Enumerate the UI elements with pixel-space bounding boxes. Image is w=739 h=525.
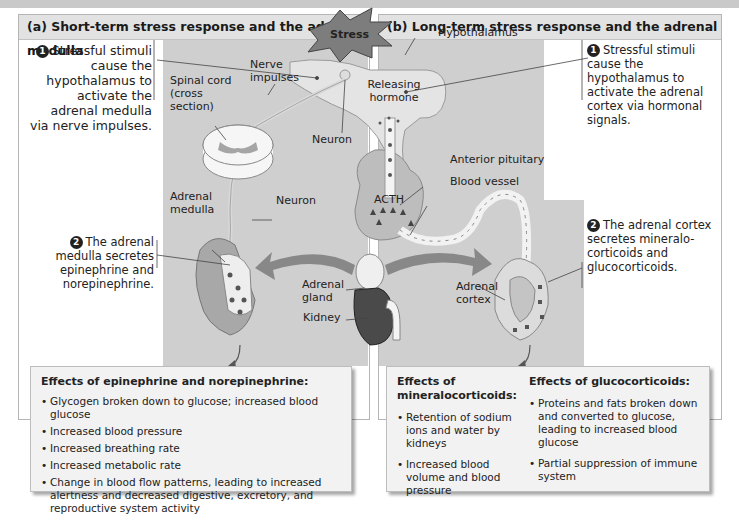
list-item: Glycogen broken down to glucose; increas… (41, 395, 343, 421)
label-nerve-impulses: Nerve impulses (250, 58, 298, 84)
effects-mineralo-list: Retention of sodium ions and water by ki… (397, 411, 513, 497)
list-item: Change in blood flow patterns, leading t… (41, 476, 343, 515)
label-anterior-pituitary: Anterior pituitary (450, 153, 544, 166)
label-neuron-top: Neuron (312, 133, 352, 146)
label-acth: ACTH (374, 193, 404, 206)
label-spinal-cord: Spinal cord (cross section) (170, 74, 242, 113)
step-number-1-icon: 1 (36, 45, 49, 58)
label-stress: Stress (330, 28, 369, 41)
panel-a-step-2: 2The adrenal medulla secretes epinephrin… (30, 235, 154, 291)
list-item: Increased blood volume and blood pressur… (397, 458, 513, 497)
panel-b-step-2: 2The adrenal cortex secretes mineralo-co… (587, 218, 717, 274)
label-hypothalamus: Hypothalamus (438, 26, 518, 39)
panel-a-step-1: 1Stressful stimuli cause the hypothalamu… (30, 43, 152, 133)
list-item: Partial suppression of immune system (529, 457, 705, 483)
effects-mineralo-column: Effects of mineralocorticoids: Retention… (397, 375, 513, 497)
list-item: Increased breathing rate (41, 442, 343, 455)
step-number-2-icon: 2 (587, 219, 600, 232)
label-adrenal-medulla: Adrenal medulla (170, 190, 214, 216)
list-item: Increased blood pressure (41, 425, 343, 438)
effects-epinephrine-box: Effects of epinephrine and norepinephrin… (30, 366, 352, 492)
effects-gluco-title: Effects of glucocorticoids: (529, 375, 705, 389)
label-releasing-hormone: Releasing hormone (366, 78, 422, 104)
label-adrenal-gland: Adrenal gland (302, 278, 346, 304)
list-item: Increased metabolic rate (41, 459, 343, 472)
effects-gluco-column: Effects of glucocorticoids: Proteins and… (529, 375, 705, 483)
label-adrenal-cortex: Adrenal cortex (456, 280, 498, 306)
list-item: Proteins and fats broken down and conver… (529, 397, 705, 449)
effects-gluco-list: Proteins and fats broken down and conver… (529, 397, 705, 483)
label-blood-vessel: Blood vessel (450, 175, 519, 188)
label-neuron-mid: Neuron (276, 194, 316, 207)
list-item: Retention of sodium ions and water by ki… (397, 411, 513, 450)
effects-epinephrine-title: Effects of epinephrine and norepinephrin… (41, 375, 343, 389)
panel-b-step-1: 1Stressful stimuli cause the hypothalamu… (587, 43, 717, 127)
effects-mineralo-title: Effects of mineralocorticoids: (397, 375, 513, 403)
effects-corticoids-box: Effects of mineralocorticoids: Retention… (386, 366, 710, 492)
label-kidney: Kidney (303, 311, 341, 324)
effects-epinephrine-list: Glycogen broken down to glucose; increas… (41, 395, 343, 515)
step-number-1-icon: 1 (587, 44, 600, 57)
step-number-2-icon: 2 (70, 236, 83, 249)
